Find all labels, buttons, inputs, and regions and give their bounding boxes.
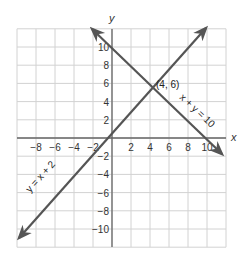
x-tick-label: 4 [147,142,153,153]
line2-label: x + y = 10 [178,91,218,129]
x-tick-labels: −8−6−4−2246810 [30,142,213,153]
x-tick-label: 2 [128,142,134,153]
y-tick-label: 6 [103,78,109,89]
y-tick-label: −6 [98,188,110,199]
x-axis-label: x [230,131,237,143]
y-tick-label: −10 [92,224,109,235]
y-tick-label: −4 [98,169,110,180]
line1-label: y = x + 2 [23,158,57,194]
y-axis-label: y [108,12,116,24]
x-tick-label: −6 [49,142,61,153]
coordinate-graph: x y −8−6−4−2246810 108642−2−4−6−8−10 (4,… [0,0,244,259]
y-tick-label: −2 [98,151,110,162]
x-tick-label: −8 [30,142,42,153]
y-tick-label: −8 [98,206,110,217]
y-tick-label: 8 [103,60,109,71]
y-tick-label: 2 [103,115,109,126]
x-tick-label: 6 [166,142,172,153]
intersection-label: (4, 6) [156,79,179,90]
x-tick-label: −4 [68,142,80,153]
x-tick-label: 8 [185,142,191,153]
y-tick-label: 4 [103,97,109,108]
